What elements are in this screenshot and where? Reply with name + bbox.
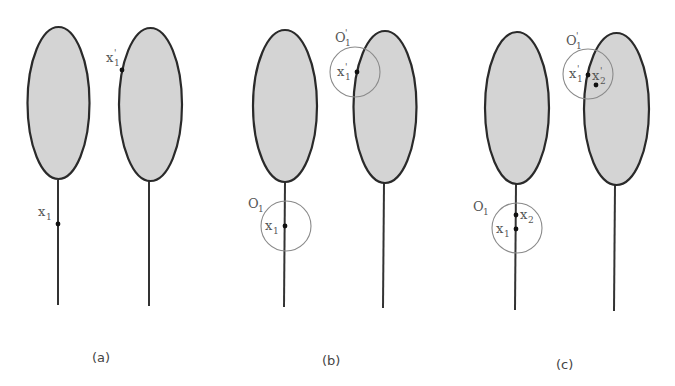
svg-text:': ' xyxy=(345,62,347,72)
left-ellipse xyxy=(253,30,317,182)
point-x1-prime xyxy=(355,70,360,75)
svg-text:1: 1 xyxy=(46,212,52,222)
left-ellipse xyxy=(485,32,549,184)
svg-text:2: 2 xyxy=(528,215,534,225)
right-ellipse xyxy=(119,28,182,181)
label-x1-prime: x xyxy=(106,50,114,65)
svg-text:': ' xyxy=(600,66,602,76)
figure-canvas: x 1 x ' 1 (a) O 1 x 1 O ' 1 x ' 1 (b) xyxy=(0,0,675,386)
point-x2-prime xyxy=(594,83,599,88)
point-x1-prime xyxy=(120,68,125,73)
svg-text:1: 1 xyxy=(273,226,279,236)
right-ellipse xyxy=(354,31,417,183)
svg-text:': ' xyxy=(576,31,578,41)
caption-c: (c) xyxy=(556,357,573,372)
svg-text:1: 1 xyxy=(345,72,351,82)
point-x1 xyxy=(283,224,288,229)
svg-text:1: 1 xyxy=(258,204,264,214)
label-x1: x xyxy=(38,204,46,219)
label-x1: x xyxy=(265,218,273,233)
label-x1-prime: x xyxy=(569,66,577,81)
label-x2-prime: x xyxy=(592,68,600,83)
svg-text:1: 1 xyxy=(114,58,120,68)
right-ellipse xyxy=(584,33,649,185)
caption-a: (a) xyxy=(92,350,110,365)
svg-text:1: 1 xyxy=(504,229,510,239)
point-x1 xyxy=(514,227,519,232)
svg-text:1: 1 xyxy=(576,41,582,51)
right-stem xyxy=(383,183,384,308)
right-stem xyxy=(614,185,615,311)
svg-text:2: 2 xyxy=(600,76,606,86)
point-x1 xyxy=(56,222,61,227)
point-x1-prime xyxy=(586,73,591,78)
panel-a: x 1 x ' 1 (a) xyxy=(28,27,183,365)
point-x2 xyxy=(514,213,519,218)
svg-text:1: 1 xyxy=(345,38,351,48)
left-ellipse xyxy=(28,27,90,179)
caption-b: (b) xyxy=(322,353,340,368)
label-x1-prime: x xyxy=(337,64,345,79)
svg-text:': ' xyxy=(577,64,579,74)
svg-text:': ' xyxy=(345,28,347,38)
panel-c: O 1 x 2 x 1 O ' 1 x ' 1 x ' 2 (c) xyxy=(473,31,649,372)
panel-b: O 1 x 1 O ' 1 x ' 1 (b) xyxy=(248,28,417,368)
label-x1: x xyxy=(496,221,504,236)
svg-text:1: 1 xyxy=(577,74,583,84)
svg-text:': ' xyxy=(114,48,116,58)
svg-text:1: 1 xyxy=(483,207,489,217)
label-x2: x xyxy=(520,207,528,222)
